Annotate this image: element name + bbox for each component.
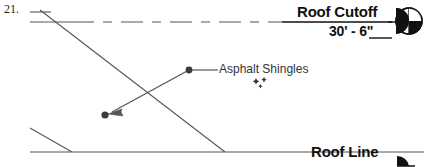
sheet-number-label: 21. [4,3,19,15]
asphalt-shingles-target-dot[interactable] [101,111,108,118]
level-name-roof-line[interactable]: Roof Line [311,144,378,159]
asphalt-shingles-leader-sloped [112,70,189,112]
roof-slope-line[interactable] [40,10,225,152]
annotation-asphalt-shingles[interactable]: Asphalt Shingles [219,63,308,75]
level-head-quadrant-icon[interactable] [396,8,422,34]
sparkle-cursor-icon [252,76,270,92]
level-name-roof-cutoff[interactable]: Roof Cutoff [297,4,377,19]
level-head-filled-icon[interactable] [397,156,415,166]
drawing-canvas: 21. Roof Cutoff 30' - 6" Asphalt Shingle… [0,0,424,167]
asphalt-shingles-origin-dot[interactable] [186,67,193,74]
level-elevation-roof-cutoff[interactable]: 30' - 6" [329,24,373,38]
eave-diagonal-line[interactable] [30,128,72,152]
